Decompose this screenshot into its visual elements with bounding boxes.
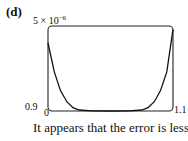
plot-frame (48, 26, 173, 111)
caption-text: It appears that the error is less (33, 120, 188, 136)
error-curve (48, 29, 173, 111)
